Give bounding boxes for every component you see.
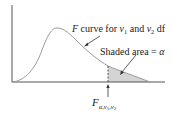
- curve-label-arrow: [86, 36, 100, 45]
- curve-label: F curve for ν1 and ν2 df: [71, 23, 166, 35]
- shaded-area-label: Shaded area = α: [100, 46, 165, 57]
- shaded-label-arrow: [122, 55, 136, 72]
- critical-value-label: Fα,ν1,ν2: [91, 96, 117, 111]
- f-distribution-diagram: F curve for ν1 and ν2 df Shaded area = α…: [0, 0, 185, 117]
- curve-arrowhead-icon: [84, 43, 89, 47]
- critical-arrowhead-icon: [106, 84, 109, 88]
